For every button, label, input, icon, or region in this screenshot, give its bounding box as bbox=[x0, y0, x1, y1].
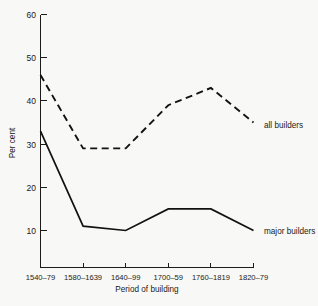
y-tick-label-40: 40 bbox=[27, 96, 37, 106]
x-tick-labels: 1540–79 1580–1639 1640–99 1700–59 1760–1… bbox=[26, 273, 269, 282]
y-tick-label-20: 20 bbox=[27, 183, 37, 193]
chart-axes bbox=[41, 15, 254, 268]
x-tick-marks bbox=[41, 263, 254, 268]
x-tick-label-1: 1580–1639 bbox=[64, 273, 102, 282]
x-tick-label-4: 1760–1819 bbox=[192, 273, 230, 282]
series-line-all-builders bbox=[41, 75, 254, 148]
series-label-major-builders: major builders bbox=[264, 227, 315, 236]
y-tick-labels: 60 50 40 30 20 10 bbox=[27, 10, 37, 236]
x-axis-title: Period of building bbox=[115, 285, 179, 294]
x-tick-label-2: 1640–99 bbox=[111, 273, 141, 282]
y-tick-marks bbox=[41, 15, 47, 231]
y-axis-title: Per cent bbox=[8, 127, 17, 158]
y-tick-label-60: 60 bbox=[27, 10, 37, 20]
x-tick-label-0: 1540–79 bbox=[26, 273, 56, 282]
chart-page: 60 50 40 30 20 10 Per cent 1540–79 1580–… bbox=[0, 0, 318, 306]
series-line-major-builders bbox=[41, 131, 254, 230]
y-tick-label-50: 50 bbox=[27, 53, 37, 63]
y-tick-label-10: 10 bbox=[27, 226, 37, 236]
y-tick-label-30: 30 bbox=[27, 140, 37, 150]
line-chart: 60 50 40 30 20 10 Per cent 1540–79 1580–… bbox=[0, 0, 318, 306]
x-tick-label-5: 1820–79 bbox=[239, 273, 269, 282]
series-label-all-builders: all builders bbox=[264, 121, 303, 130]
x-tick-label-3: 1700–59 bbox=[154, 273, 184, 282]
